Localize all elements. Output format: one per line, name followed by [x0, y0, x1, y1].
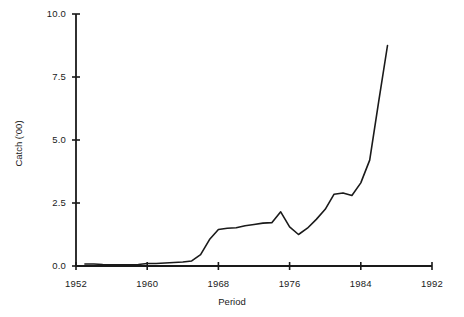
x-axis-title: Period	[0, 296, 464, 307]
x-tick-label: 1992	[402, 278, 462, 289]
y-axis-title: Catch ('00)	[13, 102, 24, 186]
y-tick-label: 2.5	[14, 197, 66, 208]
chart-plot-area	[0, 0, 464, 317]
catch-data-line	[85, 46, 388, 265]
x-tick-label: 1968	[188, 278, 248, 289]
x-tick-label: 1976	[260, 278, 320, 289]
y-tick-label: 7.5	[14, 71, 66, 82]
y-tick-label: 10.0	[14, 8, 66, 19]
y-tick-label: 0.0	[14, 260, 66, 271]
x-tick-label: 1952	[46, 278, 106, 289]
y-axis-title-wrapper: Catch ('00)	[8, 100, 24, 190]
x-tick-label: 1960	[117, 278, 177, 289]
catch-period-line-chart: 0.02.55.07.510.0 19521960196819761984199…	[0, 0, 464, 317]
x-tick-label: 1984	[331, 278, 391, 289]
